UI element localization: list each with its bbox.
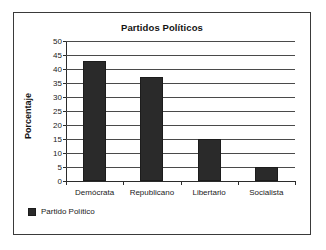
y-tick-label: 40 bbox=[53, 65, 62, 74]
chart-legend: Partido Político bbox=[28, 207, 95, 216]
y-tick-mark bbox=[63, 139, 66, 140]
y-tick-mark bbox=[63, 97, 66, 98]
y-tick-label: 10 bbox=[53, 149, 62, 158]
x-tick-mark bbox=[66, 181, 67, 185]
legend-swatch-partido-politico bbox=[28, 208, 36, 216]
y-tick-mark bbox=[63, 69, 66, 70]
x-tick-mark bbox=[295, 181, 296, 185]
y-tick-mark bbox=[63, 153, 66, 154]
y-tick-label: 30 bbox=[53, 93, 62, 102]
bar-socialista[interactable] bbox=[255, 167, 278, 181]
y-tick-label: 20 bbox=[53, 121, 62, 130]
x-tick-label: Republicano bbox=[130, 188, 174, 197]
chart-title: Partidos Políticos bbox=[14, 22, 310, 33]
y-tick-mark bbox=[63, 41, 66, 42]
y-tick-label: 45 bbox=[53, 51, 62, 60]
x-tick-label: Socialista bbox=[249, 188, 283, 197]
y-tick-label: 15 bbox=[53, 135, 62, 144]
x-tick-mark bbox=[238, 181, 239, 185]
chart-frame: Partidos Políticos Porcentaje 0510152025… bbox=[13, 12, 311, 235]
y-tick-mark bbox=[63, 83, 66, 84]
x-tick-label: Demócrata bbox=[75, 188, 114, 197]
plot-area: 05101520253035404550 DemócrataRepublican… bbox=[66, 41, 295, 181]
x-tick-mark bbox=[181, 181, 182, 185]
legend-label-partido-politico: Partido Político bbox=[41, 207, 95, 216]
y-tick-label: 5 bbox=[58, 163, 62, 172]
y-axis-title: Porcentaje bbox=[23, 86, 33, 146]
y-tick-mark bbox=[63, 125, 66, 126]
y-tick-label: 0 bbox=[58, 177, 62, 186]
bar-democrata[interactable] bbox=[83, 61, 106, 181]
x-tick-label: Libertario bbox=[192, 188, 225, 197]
y-tick-mark bbox=[63, 111, 66, 112]
gridline bbox=[66, 41, 295, 42]
y-tick-mark bbox=[63, 55, 66, 56]
x-tick-mark bbox=[123, 181, 124, 185]
bar-republicano[interactable] bbox=[140, 77, 163, 181]
bar-libertario[interactable] bbox=[198, 139, 221, 181]
y-tick-label: 25 bbox=[53, 107, 62, 116]
y-tick-mark bbox=[63, 167, 66, 168]
y-tick-label: 50 bbox=[53, 37, 62, 46]
gridline bbox=[66, 55, 295, 56]
y-tick-label: 35 bbox=[53, 79, 62, 88]
